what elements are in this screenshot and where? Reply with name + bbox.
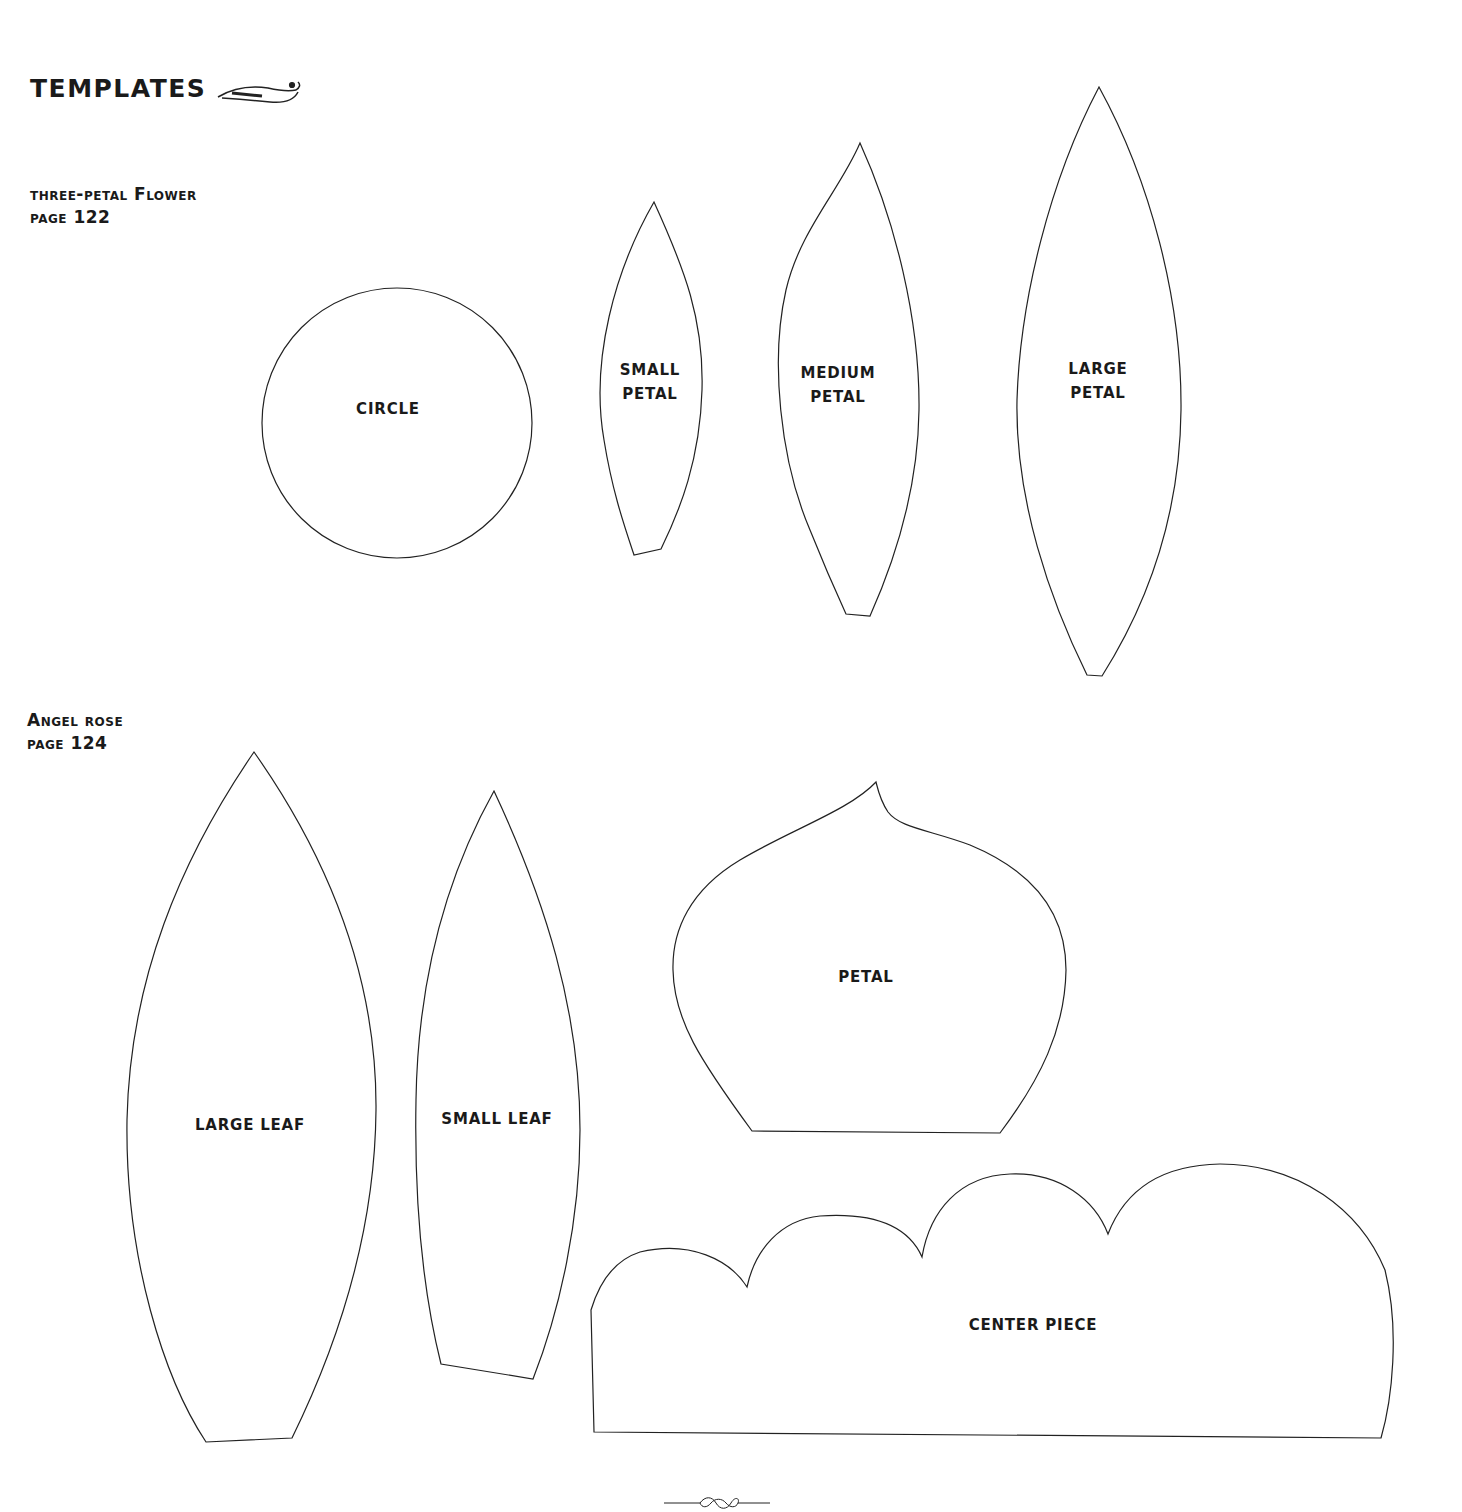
label-text: LARGE LEAF [195, 1116, 305, 1134]
label-text: SMALL LEAF [441, 1110, 552, 1128]
label-text-line2: PETAL [800, 385, 875, 409]
section-title: three-petal Flower [30, 183, 197, 206]
label-text: CIRCLE [356, 400, 420, 418]
label-text-line1: SMALL [620, 358, 680, 382]
label-text-line1: LARGE [1068, 357, 1127, 381]
page-reference: page 122 [30, 206, 197, 229]
small-leaf-template [416, 791, 580, 1379]
flourish-ornament-icon [218, 82, 300, 102]
section-heading-angel-rose: Angel rose page 124 [27, 709, 123, 755]
label-rose-petal: PETAL [838, 965, 893, 989]
label-small-petal: SMALL PETAL [620, 358, 680, 406]
rose-petal-template [673, 782, 1066, 1133]
label-small-leaf: SMALL LEAF [441, 1107, 552, 1131]
template-shapes [0, 0, 1462, 1512]
label-medium-petal: MEDIUM PETAL [800, 361, 875, 409]
large-leaf-template [127, 752, 376, 1442]
label-text-line2: PETAL [620, 382, 680, 406]
label-circle: CIRCLE [356, 397, 420, 421]
label-large-petal: LARGE PETAL [1068, 357, 1127, 405]
center-piece-template [591, 1164, 1393, 1438]
label-large-leaf: LARGE LEAF [195, 1113, 305, 1137]
label-text-line2: PETAL [1068, 381, 1127, 405]
section-title: Angel rose [27, 709, 123, 732]
label-center-piece: CENTER PIECE [969, 1313, 1098, 1337]
circle-template [262, 288, 532, 558]
label-text: PETAL [838, 968, 893, 986]
label-text: CENTER PIECE [969, 1316, 1098, 1334]
section-heading-three-petal-flower: three-petal Flower page 122 [30, 183, 197, 229]
label-text-line1: MEDIUM [800, 361, 875, 385]
scroll-divider-ornament-icon [664, 1498, 770, 1509]
page-reference: page 124 [27, 732, 123, 755]
